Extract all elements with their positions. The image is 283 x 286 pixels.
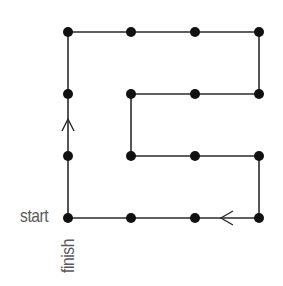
grid-dot [63,27,73,37]
grid-dot [254,213,264,223]
grid-dot [126,89,136,99]
grid-dot [126,213,136,223]
route-path [68,32,259,218]
grid-dot [63,89,73,99]
grid-dot [126,151,136,161]
grid-dot [190,151,200,161]
grid-dot [190,27,200,37]
grid-dot [254,151,264,161]
grid-dot [254,27,264,37]
grid-dot [190,89,200,99]
grid-dots [63,27,264,223]
grid-dot [254,89,264,99]
grid-dot [126,27,136,37]
direction-arrows [62,119,233,225]
start-label: start [20,205,48,227]
grid-dot [63,151,73,161]
grid-dot [63,213,73,223]
finish-label: finish [57,239,79,273]
grid-dot [190,213,200,223]
path-line [68,32,259,218]
path-diagram [0,0,283,286]
